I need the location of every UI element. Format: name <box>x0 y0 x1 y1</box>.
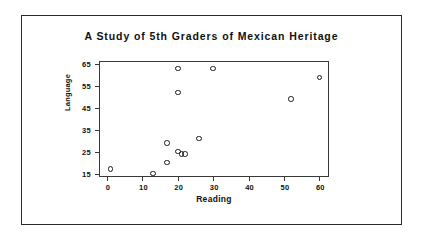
x-axis-tick-label: 10 <box>139 183 148 192</box>
data-point <box>175 66 181 72</box>
y-axis-tick: 35 <box>95 130 100 131</box>
figure-frame: A Study of 5th Graders of Mexican Herita… <box>21 15 402 225</box>
data-point <box>150 171 156 177</box>
x-axis-tick-label: 0 <box>106 183 110 192</box>
y-axis-tick-label: 35 <box>82 126 91 135</box>
y-axis-tick: 25 <box>95 152 100 153</box>
x-axis-tick: 50 <box>284 176 285 181</box>
data-point <box>288 96 294 102</box>
x-axis-tick-label: 40 <box>245 183 254 192</box>
y-axis-title: Language <box>63 74 72 111</box>
x-axis-tick: 20 <box>178 176 179 181</box>
x-axis-title: Reading <box>99 194 329 204</box>
data-point <box>196 136 202 142</box>
y-axis-tick-label: 45 <box>82 104 91 113</box>
data-point <box>164 140 170 146</box>
x-axis-tick-label: 30 <box>210 183 219 192</box>
chart-title: A Study of 5th Graders of Mexican Herita… <box>22 30 401 42</box>
data-point <box>175 90 181 96</box>
y-axis-tick: 45 <box>95 108 100 109</box>
x-axis-tick: 60 <box>319 176 320 181</box>
plot-area: 152535455565 0102030405060 <box>99 61 329 177</box>
data-point <box>210 66 216 72</box>
data-point <box>164 160 170 166</box>
x-axis-tick: 30 <box>213 176 214 181</box>
y-axis-tick-label: 25 <box>82 148 91 157</box>
x-axis-tick: 0 <box>107 176 108 181</box>
x-axis-tick: 40 <box>249 176 250 181</box>
x-axis-tick-label: 60 <box>316 183 325 192</box>
data-point <box>317 75 323 81</box>
y-axis-tick-label: 55 <box>82 82 91 91</box>
y-axis-tick: 55 <box>95 86 100 87</box>
y-axis-tick-label: 65 <box>82 60 91 69</box>
x-axis-tick-label: 20 <box>174 183 183 192</box>
y-axis-tick-label: 15 <box>82 170 91 179</box>
data-point <box>108 166 114 172</box>
data-point <box>182 151 188 157</box>
y-axis-tick: 65 <box>95 64 100 65</box>
x-axis-tick: 10 <box>142 176 143 181</box>
x-axis-tick-label: 50 <box>281 183 290 192</box>
y-axis-tick: 15 <box>95 174 100 175</box>
